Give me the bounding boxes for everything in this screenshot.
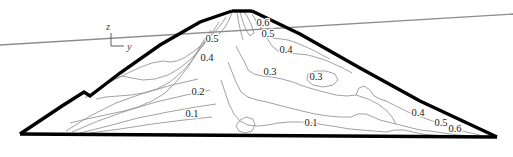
contour-label: 0.5 bbox=[261, 28, 274, 39]
figure-canvas: z y 0.6 0.5 0.5 0.4 0.4 0.3 0.3 0.2 0.1 … bbox=[0, 0, 513, 157]
contour-label: 0.1 bbox=[185, 108, 198, 119]
axis-label-z: z bbox=[105, 21, 110, 32]
contour-labels: 0.6 0.5 0.5 0.4 0.4 0.3 0.3 0.2 0.1 0.1 … bbox=[185, 17, 461, 134]
contour-label: 0.3 bbox=[263, 66, 276, 77]
axis-label-y: y bbox=[126, 41, 132, 52]
contour-label: 0.4 bbox=[411, 107, 425, 118]
outline-left-slope bbox=[20, 11, 232, 134]
outline-right-slope bbox=[252, 11, 497, 137]
contour-path-0.6-crest bbox=[240, 12, 254, 36]
contour-label: 0.5 bbox=[205, 33, 218, 44]
contour-label: 0.2 bbox=[191, 86, 204, 97]
contour-path-0.3-left bbox=[122, 22, 219, 80]
z-y-axis-marker bbox=[111, 33, 124, 46]
contour-label: 0.6 bbox=[448, 123, 461, 134]
contour-figure: z y 0.6 0.5 0.5 0.4 0.4 0.3 0.3 0.2 0.1 … bbox=[0, 0, 513, 157]
contour-label: 0.4 bbox=[279, 44, 293, 55]
contour-path-0.6-spur-a bbox=[237, 13, 243, 40]
contour-path-filament-a bbox=[66, 79, 198, 131]
contour-label: 0.6 bbox=[256, 17, 269, 28]
contour-path-0.2-crest bbox=[228, 62, 351, 117]
contour-label: 0.3 bbox=[309, 71, 322, 82]
contour-label: 0.5 bbox=[434, 117, 447, 128]
contour-path-filament-d bbox=[90, 117, 212, 133]
contour-path-filament-h bbox=[356, 95, 396, 124]
contour-path-upper-right-a bbox=[288, 40, 330, 59]
contour-label: 0.1 bbox=[304, 117, 317, 128]
contour-label: 0.4 bbox=[200, 52, 214, 63]
